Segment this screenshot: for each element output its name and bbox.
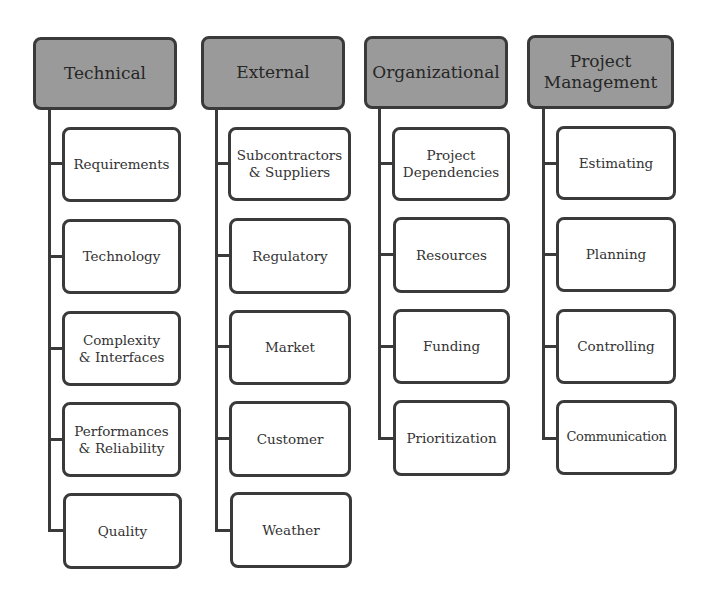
node-label: Quality: [98, 523, 148, 540]
connector-technical: [48, 108, 51, 532]
node-label: Resources: [416, 247, 487, 264]
category-technical: Technical: [33, 37, 177, 110]
node-communication: Communication: [556, 400, 677, 475]
node-complexity-interfaces: Complexity & Interfaces: [62, 311, 181, 386]
connector-weather: [215, 529, 231, 532]
node-resources: Resources: [393, 217, 510, 293]
node-label: Complexity & Interfaces: [65, 332, 178, 366]
node-label: Requirements: [73, 156, 169, 173]
node-performances-reliability: Performances & Reliability: [62, 402, 181, 477]
category-label: Organizational: [372, 62, 500, 83]
connector-organizational: [378, 108, 381, 440]
node-customer: Customer: [229, 401, 351, 477]
node-planning: Planning: [556, 217, 676, 292]
node-label: Market: [265, 339, 315, 356]
node-subcontractors-suppliers: Subcontractors & Suppliers: [228, 127, 351, 201]
node-requirements: Requirements: [62, 127, 181, 202]
category-organizational: Organizational: [364, 36, 508, 109]
category-project-management: Project Management: [527, 35, 674, 109]
node-label: Prioritization: [406, 430, 496, 447]
node-quality: Quality: [63, 493, 182, 569]
node-funding: Funding: [393, 309, 510, 384]
connector-funding: [378, 345, 394, 348]
node-weather: Weather: [230, 492, 352, 568]
node-prioritization: Prioritization: [393, 400, 510, 476]
category-label: Project Management: [530, 51, 672, 94]
category-label: External: [236, 62, 310, 83]
node-label: Regulatory: [252, 248, 328, 265]
connector-resources: [378, 253, 394, 256]
node-technology: Technology: [62, 219, 181, 294]
node-estimating: Estimating: [556, 126, 676, 200]
node-label: Controlling: [577, 338, 654, 355]
node-controlling: Controlling: [556, 309, 676, 384]
connector-prioritization: [378, 437, 394, 440]
node-label: Funding: [423, 338, 480, 355]
node-label: Technology: [83, 248, 161, 265]
node-label: Project Dependencies: [395, 147, 507, 181]
connector-external: [215, 108, 218, 532]
node-label: Subcontractors & Suppliers: [231, 147, 348, 181]
category-external: External: [201, 36, 345, 110]
category-label: Technical: [64, 63, 146, 84]
node-label: Communication: [566, 429, 666, 445]
connector-quality: [48, 529, 64, 532]
node-label: Customer: [257, 431, 324, 448]
node-label: Planning: [586, 246, 647, 263]
node-label: Performances & Reliability: [65, 423, 178, 457]
node-market: Market: [229, 310, 351, 385]
node-regulatory: Regulatory: [229, 218, 351, 294]
node-project-dependencies: Project Dependencies: [392, 127, 510, 201]
node-label: Weather: [262, 522, 319, 539]
node-label: Estimating: [579, 155, 653, 172]
connector-project-management: [542, 108, 545, 440]
